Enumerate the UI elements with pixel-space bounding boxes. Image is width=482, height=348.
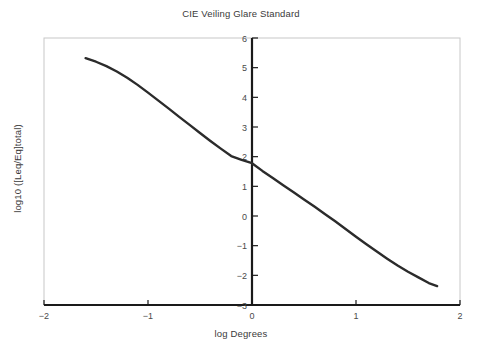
y-tick-label: −1 [237,241,247,251]
chart-figure: CIE Veiling Glare Standard −2−1012 −3−2−… [0,0,482,348]
y-tick-label: 3 [242,123,247,133]
y-axis-label: log10 ([Leq/Eq]total) [12,109,23,229]
y-tick-label: 5 [242,63,247,73]
x-tick-group: −2−1012 [39,300,463,321]
x-tick-label: −1 [143,311,153,321]
x-tick-label: 2 [457,311,462,321]
x-tick-label: 0 [249,311,254,321]
x-tick-label: −2 [39,311,49,321]
y-tick-label: −2 [237,271,247,281]
data-curve [86,58,438,286]
y-tick-label: −3 [237,301,247,311]
y-tick-label: 1 [242,182,247,192]
x-tick-label: 1 [353,311,358,321]
y-tick-label: 4 [242,93,247,103]
y-tick-group: −3−2−10123456 [237,34,258,311]
x-axis-label: log Degrees [0,328,482,339]
y-tick-label: 0 [242,212,247,222]
plot-area: −2−1012 −3−2−10123456 [0,0,482,348]
y-tick-label: 6 [242,34,247,44]
